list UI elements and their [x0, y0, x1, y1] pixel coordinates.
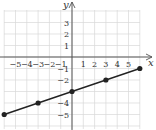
coordinate-plane: −5−4−3−2−112345321−1−2−4−5 x y — [0, 0, 156, 130]
data-point — [2, 112, 7, 117]
x-tick-label: 5 — [126, 60, 131, 69]
y-axis-label: y — [62, 0, 69, 10]
y-tick-label: −1 — [57, 65, 69, 74]
data-point — [36, 100, 41, 105]
x-tick-label: 2 — [92, 60, 97, 69]
x-tick-label: 3 — [103, 60, 108, 69]
x-axis-label: x — [148, 57, 154, 68]
y-tick-label: 1 — [64, 42, 69, 51]
x-tick-label: −3 — [32, 60, 44, 69]
x-tick-label: 1 — [81, 60, 86, 69]
y-tick-label: −2 — [57, 76, 69, 85]
data-point — [103, 77, 108, 82]
x-tick-label: −5 — [10, 60, 22, 69]
x-tick-label: −4 — [21, 60, 33, 69]
data-point — [69, 89, 74, 94]
data-point — [137, 66, 142, 71]
y-tick-label: −4 — [57, 99, 69, 108]
x-tick-label: −2 — [44, 60, 56, 69]
y-tick-label: 3 — [64, 19, 69, 28]
y-tick-label: −5 — [57, 111, 69, 120]
y-tick-label: 2 — [64, 30, 69, 39]
x-tick-label: 4 — [115, 60, 120, 69]
